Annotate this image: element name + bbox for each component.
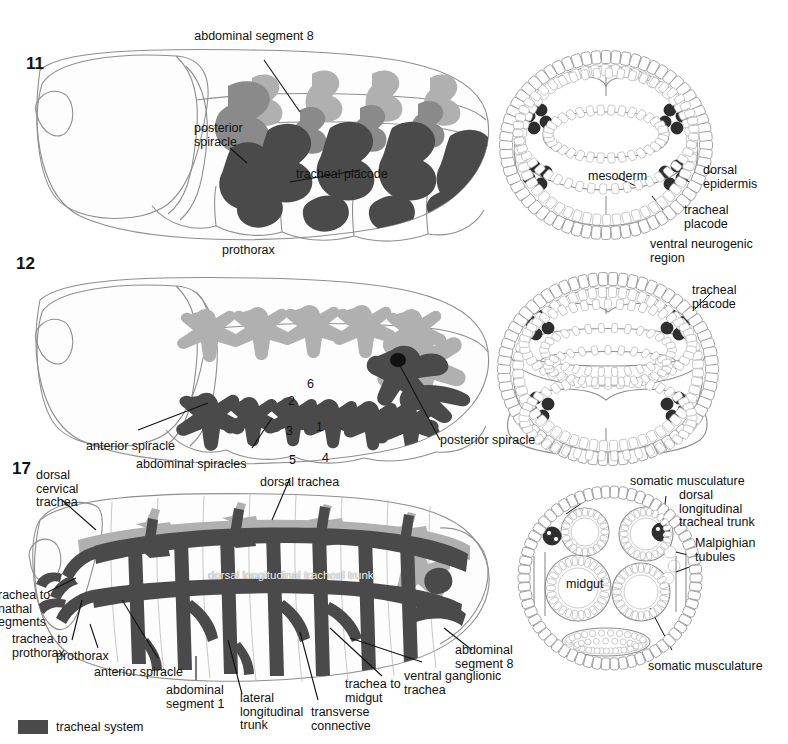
branch-number-4: 4	[322, 451, 329, 465]
label-transverse-connective: transverse connective	[311, 706, 371, 733]
label-lateral-longitudinal-trunk: lateral longitudinal trunk	[240, 692, 303, 733]
label-posterior-spiracle: posterior spiracle	[194, 122, 274, 149]
legend-label-tracheal-system: tracheal system	[56, 721, 144, 735]
label-dorsal-epidermis: dorsal epidermis	[703, 164, 757, 191]
label-mesoderm: mesoderm	[588, 170, 647, 184]
label-malpighian-tubules: Malpighian tubules	[695, 537, 755, 564]
label-ventral-neurogenic-region: ventral neurogenic region	[650, 238, 753, 265]
branch-number-6: 6	[307, 377, 314, 391]
label-tracheal-placode: tracheal placode	[296, 168, 388, 182]
branch-number-3: 3	[286, 424, 293, 438]
label-midgut: midgut	[566, 578, 604, 592]
label-anterior-spiracle-17: anterior spiracle	[94, 666, 183, 680]
branch-number-5: 5	[289, 453, 296, 467]
label-prothorax: prothorax	[222, 244, 275, 258]
label-anterior-spiracle: anterior spiracle	[86, 440, 175, 454]
figure-canvas: 11 abdominal segment 8 posterior spiracl…	[0, 0, 788, 744]
label-posterior-spiracle-12: posterior spiracle	[440, 434, 535, 448]
panel-12-embryo	[35, 278, 488, 464]
label-abdominal-segment-1: abdominal segment 1	[166, 684, 224, 711]
label-dorsal-trachea: dorsal trachea	[260, 476, 339, 490]
label-tracheal-placode-cs12: tracheal placode	[692, 284, 736, 311]
label-abdominal-segment-8: abdominal segment 8	[184, 30, 324, 44]
branch-number-2: 2	[288, 394, 295, 408]
legend-swatch-tracheal-system	[18, 720, 48, 734]
overlay-dorsal-longitudinal-tracheal-trunk: dorsal longitudinal tracheal trunk	[208, 569, 374, 581]
panel-number-11: 11	[26, 54, 44, 74]
label-abdominal-segment-8-17: abdominal segment 8	[455, 644, 513, 671]
label-dorsal-longitudinal-tracheal-trunk-cs: dorsal longitudinal tracheal trunk	[679, 489, 755, 530]
label-dorsal-cervical-trachea: dorsal cervical trachea	[36, 469, 78, 510]
label-ventral-ganglionic-trachea: ventral ganglionic trachea	[404, 670, 501, 697]
branch-number-1: 1	[316, 420, 323, 434]
label-trachea-to-gnathal-segments: rachea to nathal egments	[0, 589, 50, 630]
figure-artwork	[0, 0, 788, 744]
label-trachea-to-midgut: trachea to midgut	[345, 678, 401, 705]
label-prothorax-17: prothorax	[56, 650, 109, 664]
label-tracheal-placode-cs11: tracheal placode	[684, 204, 728, 231]
label-somatic-musculature-bottom: somatic musculature	[648, 660, 763, 674]
label-abdominal-spiracles: abdominal spiracles	[136, 458, 246, 472]
label-somatic-musculature-top: somatic musculature	[630, 475, 745, 489]
panel-number-12: 12	[16, 254, 35, 274]
panel-number-17: 17	[12, 459, 31, 479]
